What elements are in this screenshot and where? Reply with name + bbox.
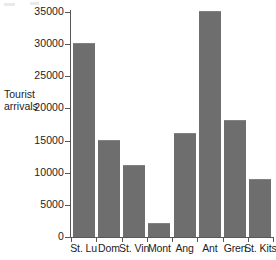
y-axis-tick-label: 20000 [20, 101, 64, 113]
y-axis-tick [65, 44, 71, 45]
bar-slot [98, 12, 120, 237]
bar-chart-figure: Tourist arrivals 05000100001500020000250… [0, 0, 276, 260]
bar[interactable] [98, 140, 120, 237]
bar-slot [148, 12, 170, 237]
y-axis-tick [65, 108, 71, 109]
bar-slot [199, 12, 221, 237]
y-axis-tick [65, 205, 71, 206]
bar-slot [73, 12, 95, 237]
bar[interactable] [123, 165, 145, 237]
bar[interactable] [224, 120, 246, 237]
bar[interactable] [199, 11, 221, 237]
y-axis-tick [65, 76, 71, 77]
x-axis-tick-label: St. Kits [242, 242, 276, 254]
bar[interactable] [249, 179, 271, 237]
y-axis-tick-label: 0 [20, 230, 64, 242]
y-axis-tick-label: 35000 [20, 5, 64, 17]
bar-slot [174, 12, 196, 237]
bar-slot [224, 12, 246, 237]
y-axis-tick-label: 25000 [20, 69, 64, 81]
y-axis-tick-label: 15000 [20, 134, 64, 146]
x-axis-tick [273, 238, 274, 242]
y-axis-labels: 05000100001500020000250003000035000 [16, 0, 64, 260]
y-axis-tick-label: 30000 [20, 37, 64, 49]
bar-slot [123, 12, 145, 237]
bar-slot [249, 12, 271, 237]
scan-artifact [4, 3, 15, 6]
bar[interactable] [148, 223, 170, 237]
y-axis-tick [65, 12, 71, 13]
y-axis-tick [65, 141, 71, 142]
bar[interactable] [73, 43, 95, 237]
y-axis-tick-label: 10000 [20, 166, 64, 178]
bar[interactable] [174, 133, 196, 237]
y-axis-tick [65, 173, 71, 174]
plot-area [71, 12, 273, 237]
y-axis-tick-label: 5000 [20, 198, 64, 210]
